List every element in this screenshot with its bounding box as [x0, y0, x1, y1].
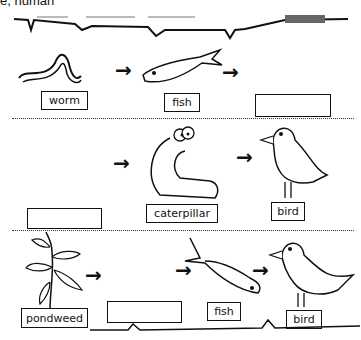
bird-illustration: [255, 120, 330, 200]
arrow-icon: →: [252, 260, 269, 280]
caterpillar-illustration: [140, 123, 222, 203]
label-bird: bird: [271, 202, 305, 221]
answer-blank[interactable]: [255, 94, 331, 117]
row-divider: [12, 230, 354, 231]
answer-blank[interactable]: [27, 208, 102, 229]
arrow-icon: →: [236, 147, 253, 167]
terrain-bottom-illustration: [0, 318, 361, 340]
arrow-icon: →: [115, 60, 132, 80]
fish-illustration: [140, 45, 225, 93]
label-worm: worm: [41, 91, 88, 110]
arrow-icon: →: [222, 62, 239, 82]
bird-illustration: [268, 235, 358, 315]
arrow-icon: →: [85, 265, 102, 285]
label-fish: fish: [164, 93, 200, 112]
pondweed-illustration: [20, 232, 90, 312]
arrow-icon: →: [113, 153, 130, 173]
terrain-top-illustration: [0, 0, 361, 40]
label-caterpillar: caterpillar: [146, 204, 218, 223]
row-divider: [12, 118, 354, 119]
worm-illustration: [15, 48, 83, 88]
